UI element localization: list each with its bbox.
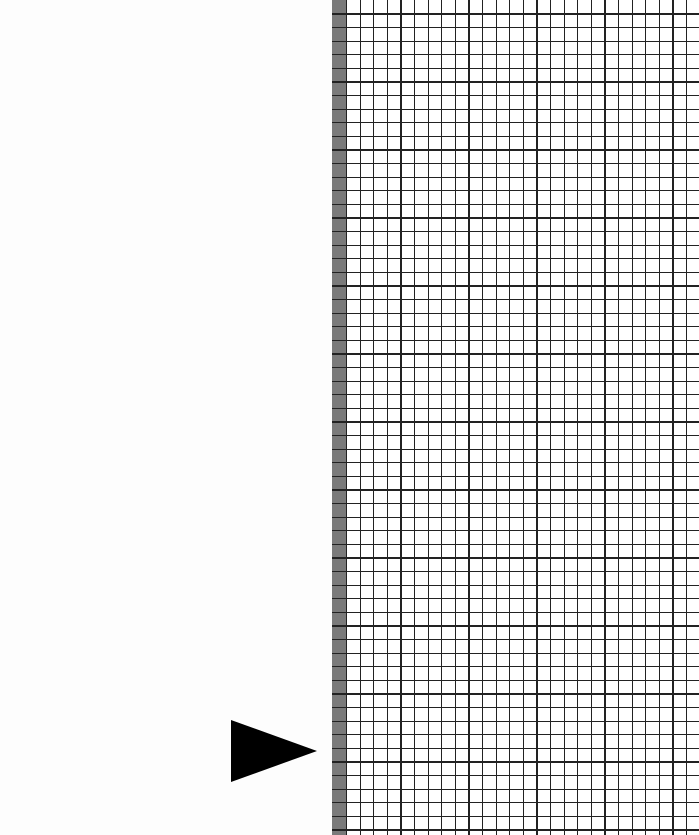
blank-panel <box>0 0 332 835</box>
play-triangle-icon[interactable] <box>231 720 317 782</box>
grid-paper <box>346 0 699 835</box>
grid-margin-strip <box>332 0 346 835</box>
